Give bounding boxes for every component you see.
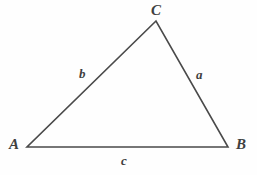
side-label-b: b — [79, 67, 86, 80]
vertex-label-a: A — [9, 137, 19, 152]
side-label-c: c — [121, 154, 127, 167]
vertex-label-b: B — [236, 137, 246, 152]
triangle-outline — [0, 0, 257, 175]
triangle-figure: C A B b a c — [0, 0, 257, 175]
side-label-a: a — [196, 68, 203, 81]
vertex-label-c: C — [151, 3, 161, 18]
triangle-polygon — [27, 21, 228, 147]
